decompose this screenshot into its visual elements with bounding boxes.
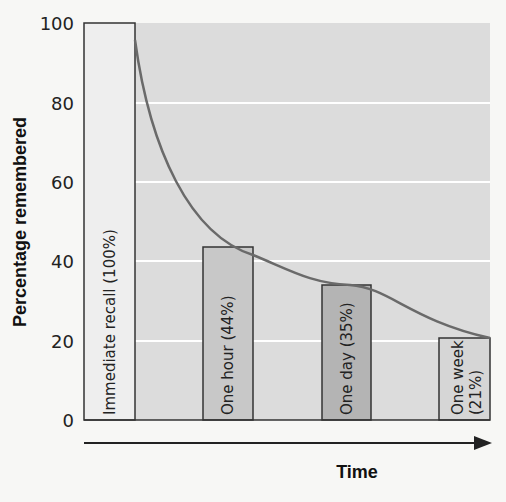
bar-label-one-day: One day (35%) bbox=[338, 302, 356, 415]
bar-label-one-week: One week bbox=[449, 340, 467, 415]
bar-label-one-week-pct: (21%) bbox=[467, 370, 485, 415]
tick-60: 60 bbox=[51, 172, 74, 193]
y-axis-label: Percentage remembered bbox=[10, 117, 30, 327]
tick-20: 20 bbox=[51, 331, 74, 352]
plot-area bbox=[84, 23, 490, 420]
bar-label-immediate: Immediate recall (100%) bbox=[101, 229, 119, 415]
arrow-head-icon bbox=[474, 436, 492, 450]
tick-0: 0 bbox=[63, 410, 74, 431]
tick-80: 80 bbox=[51, 93, 74, 114]
forgetting-curve-chart: 0 20 40 60 80 100 Percentage remembered … bbox=[0, 0, 506, 502]
x-axis-label: Time bbox=[336, 462, 378, 482]
bar-label-one-hour: One hour (44%) bbox=[219, 296, 237, 415]
y-ticks: 0 20 40 60 80 100 bbox=[40, 13, 74, 431]
tick-40: 40 bbox=[51, 251, 74, 272]
time-axis-arrow bbox=[84, 436, 492, 450]
tick-100: 100 bbox=[40, 13, 74, 34]
